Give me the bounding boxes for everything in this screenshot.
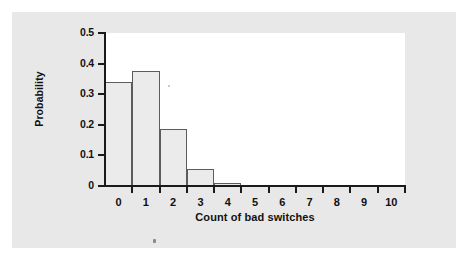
x-tick-mark [268, 187, 270, 193]
y-tick-mark [98, 185, 104, 187]
x-tick-mark [159, 187, 161, 193]
y-axis-line [104, 32, 106, 187]
x-tick-mark [322, 187, 324, 193]
x-tick-label: 3 [188, 196, 212, 208]
bar-3 [187, 169, 214, 186]
scan-speck-artifact [168, 85, 170, 87]
x-tick-mark [377, 187, 379, 193]
x-tick-label: 0 [107, 196, 131, 208]
x-tick-label: 9 [352, 196, 376, 208]
x-tick-mark [295, 187, 297, 193]
bar-0 [105, 82, 132, 186]
x-tick-label: 1 [134, 196, 158, 208]
x-axis-title: Count of bad switches [105, 211, 405, 223]
x-tick-mark [131, 187, 133, 193]
x-axis-line [104, 185, 406, 187]
x-tick-mark [186, 187, 188, 193]
x-tick-label: 2 [161, 196, 185, 208]
x-tick-label: 7 [298, 196, 322, 208]
y-tick-label: 0.5 [56, 26, 94, 38]
y-tick-label: 0.3 [56, 87, 94, 99]
y-tick-mark [98, 124, 104, 126]
y-tick-label: 0.2 [56, 118, 94, 130]
y-axis-title: Probability [33, 44, 45, 154]
x-tick-mark [213, 187, 215, 193]
x-tick-mark [240, 187, 242, 193]
bar-2 [160, 129, 187, 186]
y-tick-label: 0.1 [56, 148, 94, 160]
x-tick-mark [349, 187, 351, 193]
x-tick-label: 10 [379, 196, 403, 208]
figure-root: 00.10.20.30.40.5 012345678910 Probabilit… [0, 0, 468, 263]
x-tick-label: 5 [243, 196, 267, 208]
y-tick-mark [98, 63, 104, 65]
y-tick-label: 0 [56, 179, 94, 191]
x-tick-label: 6 [270, 196, 294, 208]
y-tick-mark [98, 32, 104, 34]
bar-1 [132, 71, 159, 186]
x-tick-label: 4 [216, 196, 240, 208]
y-tick-label: 0.4 [56, 57, 94, 69]
y-tick-mark [98, 93, 104, 95]
scan-speck-artifact [153, 239, 156, 243]
x-tick-mark [404, 187, 406, 193]
x-tick-label: 8 [325, 196, 349, 208]
y-tick-mark [98, 154, 104, 156]
